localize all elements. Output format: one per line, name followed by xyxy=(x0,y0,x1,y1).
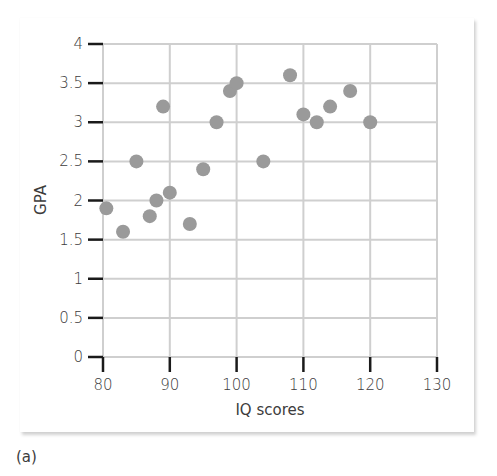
y-tick-label: 0 xyxy=(73,348,83,366)
data-point xyxy=(343,84,357,98)
x-tick-label: 130 xyxy=(423,376,452,394)
data-point xyxy=(196,162,210,176)
scatter-plot: 8090100110120130 00.511.522.533.54 IQ sc… xyxy=(0,0,497,476)
data-point xyxy=(183,217,197,231)
y-tick-label: 1 xyxy=(73,270,83,288)
y-axis-tick-labels: 00.511.522.533.54 xyxy=(59,35,83,366)
y-tick-label: 4 xyxy=(73,35,83,53)
axis-ticks xyxy=(88,44,437,372)
data-point xyxy=(156,100,170,114)
x-tick-label: 110 xyxy=(289,376,318,394)
data-point xyxy=(256,154,270,168)
y-tick-label: 2 xyxy=(73,192,83,210)
data-point xyxy=(323,100,337,114)
x-tick-label: 120 xyxy=(356,376,385,394)
data-point xyxy=(129,154,143,168)
data-point xyxy=(283,68,297,82)
y-tick-label: 3 xyxy=(73,113,83,131)
x-axis-title: IQ scores xyxy=(235,401,304,419)
y-tick-label: 3.5 xyxy=(59,74,83,92)
x-tick-label: 80 xyxy=(93,376,112,394)
panel-label: (a) xyxy=(16,448,37,466)
data-point xyxy=(163,186,177,200)
data-point xyxy=(116,225,130,239)
data-point xyxy=(296,107,310,121)
x-tick-label: 90 xyxy=(160,376,179,394)
data-point xyxy=(99,201,113,215)
data-point xyxy=(143,209,157,223)
data-point xyxy=(363,115,377,129)
x-tick-label: 100 xyxy=(222,376,251,394)
y-tick-label: 1.5 xyxy=(59,231,83,249)
y-tick-label: 2.5 xyxy=(59,152,83,170)
data-point xyxy=(149,194,163,208)
y-tick-label: 0.5 xyxy=(59,309,83,327)
data-point xyxy=(210,115,224,129)
data-points xyxy=(99,68,377,239)
data-point xyxy=(230,76,244,90)
x-axis-tick-labels: 8090100110120130 xyxy=(93,376,451,394)
data-point xyxy=(310,115,324,129)
y-axis-title: GPA xyxy=(32,184,50,215)
